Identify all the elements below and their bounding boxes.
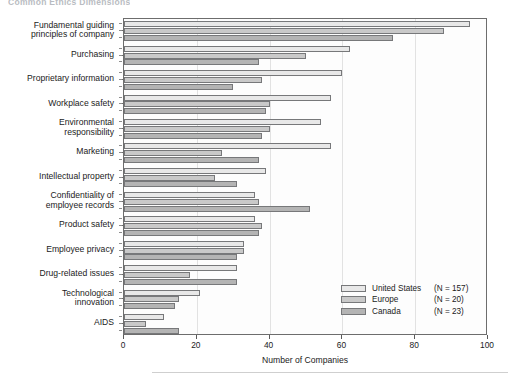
y-axis-label: Environmentalresponsibility [0, 118, 119, 137]
y-axis-label: Technologicalinnovation [0, 289, 119, 308]
bar [124, 265, 237, 271]
bar [124, 133, 262, 139]
y-axis-minor-tick [119, 225, 122, 226]
y-axis-minor-tick [119, 97, 122, 98]
bar [124, 314, 164, 320]
bar [124, 230, 259, 236]
x-axis-tick-label: 60 [337, 340, 346, 350]
legend-swatch-us [341, 285, 366, 292]
bar [124, 321, 146, 327]
y-axis-minor-tick [119, 183, 122, 184]
bar [124, 46, 350, 52]
y-axis-minor-tick [119, 267, 122, 268]
y-axis-minor-tick [119, 152, 122, 153]
y-axis-minor-tick [119, 201, 122, 202]
bar [124, 290, 200, 296]
bar [124, 150, 222, 156]
y-axis-minor-tick [119, 121, 122, 122]
x-axis-tick [269, 335, 270, 339]
y-axis-minor-tick [119, 305, 122, 306]
y-axis-minor-tick [119, 243, 122, 244]
x-axis-tick [196, 335, 197, 339]
bar [124, 192, 255, 198]
bar-chart-figure: Fundamental guidingprinciples of company… [0, 0, 508, 378]
y-axis-minor-tick [119, 208, 122, 209]
y-axis-minor-tick [119, 250, 122, 251]
bar [124, 59, 259, 65]
y-axis-label: Workplace safety [0, 99, 119, 109]
y-axis-minor-tick [119, 323, 122, 324]
chart-legend: United States(N = 157)Europe(N = 20)Cana… [341, 283, 468, 318]
y-axis-minor-tick [119, 72, 122, 73]
bar [124, 119, 321, 125]
y-axis-minor-tick [119, 37, 122, 38]
bar [124, 126, 270, 132]
footer-divider [152, 372, 508, 373]
legend-label: Europe [372, 295, 434, 304]
y-axis-label: Intellectual property [0, 172, 119, 182]
y-axis-minor-tick [119, 145, 122, 146]
y-axis-minor-tick [119, 316, 122, 317]
bar [124, 84, 233, 90]
bar [124, 296, 179, 302]
y-axis-minor-tick [119, 128, 122, 129]
bar [124, 223, 262, 229]
x-axis-title: Number of Companies [123, 355, 487, 365]
legend-sample-size: (N = 20) [434, 295, 464, 304]
legend-swatch-ca [341, 308, 366, 315]
y-axis-label: Fundamental guidingprinciples of company [0, 21, 119, 40]
bar [124, 35, 393, 41]
y-axis-minor-tick [119, 30, 122, 31]
y-axis-minor-tick [119, 55, 122, 56]
y-axis-minor-tick [119, 23, 122, 24]
y-axis-minor-tick [119, 177, 122, 178]
legend-item: Europe(N = 20) [341, 295, 468, 305]
y-axis-label: Purchasing [0, 50, 119, 60]
gridline-40 [270, 19, 271, 334]
y-axis-minor-tick [119, 110, 122, 111]
bar [124, 28, 444, 34]
y-axis-minor-tick [119, 170, 122, 171]
y-axis-label: Proprietary information [0, 74, 119, 84]
x-axis-tick [414, 335, 415, 339]
bar [124, 254, 237, 260]
y-axis-minor-tick [119, 159, 122, 160]
x-axis-tick [123, 335, 124, 339]
y-axis-minor-tick [119, 103, 122, 104]
legend-sample-size: (N = 157) [434, 284, 468, 293]
y-axis-label: Drug-related issues [0, 269, 119, 279]
x-axis-tick-label: 0 [121, 340, 126, 350]
x-axis-tick-label: 20 [191, 340, 200, 350]
y-axis-label: Confidentiality ofemployee records [0, 191, 119, 210]
x-axis-tick-label: 80 [410, 340, 419, 350]
bar [124, 168, 266, 174]
x-axis-tick-label: 100 [480, 340, 494, 350]
y-axis-label: Employee privacy [0, 245, 119, 255]
bar [124, 279, 237, 285]
y-axis-minor-tick [119, 61, 122, 62]
y-axis-minor-tick [119, 194, 122, 195]
y-axis-minor-tick [119, 292, 122, 293]
legend-label: Canada [372, 307, 434, 316]
bar [124, 328, 179, 334]
y-axis-minor-tick [119, 79, 122, 80]
y-axis-minor-tick [119, 135, 122, 136]
y-axis-minor-tick [119, 48, 122, 49]
bar [124, 206, 310, 212]
x-axis-tick-label: 40 [264, 340, 273, 350]
bar [124, 53, 306, 59]
y-axis-label: Product safety [0, 220, 119, 230]
y-axis-label: Marketing [0, 147, 119, 157]
bar [124, 272, 190, 278]
legend-label: United States [372, 284, 434, 293]
y-axis-minor-tick [119, 86, 122, 87]
y-axis-minor-tick [119, 232, 122, 233]
legend-item: Canada(N = 23) [341, 306, 468, 316]
y-axis-minor-tick [119, 281, 122, 282]
bar [124, 175, 215, 181]
bar [124, 199, 259, 205]
bar [124, 95, 331, 101]
bar [124, 77, 262, 83]
bar [124, 143, 331, 149]
bar [124, 21, 470, 27]
